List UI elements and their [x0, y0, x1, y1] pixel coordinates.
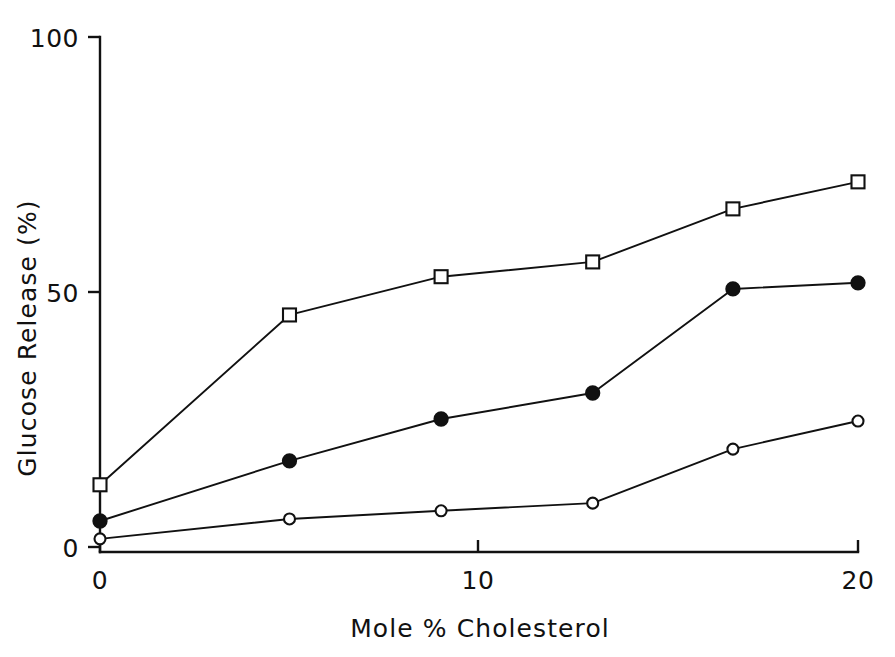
marker-open-circle — [95, 533, 106, 544]
line-chart-canvas: 100 50 0 0 10 20 Mole % Cholesterol Gluc… — [0, 0, 895, 657]
marker-open-circle — [727, 444, 738, 455]
data-series-layer — [93, 175, 864, 544]
marker-filled-circle — [726, 282, 739, 295]
marker-filled-circle — [851, 276, 864, 289]
axes-group — [100, 37, 858, 552]
marker-open-circle — [284, 513, 295, 524]
marker-open-circle — [587, 498, 598, 509]
x-tick-label-20: 20 — [842, 566, 875, 595]
marker-open-square — [283, 308, 296, 321]
x-tick-label-0: 0 — [92, 566, 108, 595]
y-axis-title: Glucose Release (%) — [13, 199, 42, 476]
marker-open-square — [726, 202, 739, 215]
y-tick-label-100: 100 — [30, 24, 79, 53]
marker-filled-circle — [586, 386, 599, 399]
marker-filled-circle — [283, 454, 296, 467]
marker-open-square — [94, 478, 107, 491]
y-tick-label-50: 50 — [46, 279, 79, 308]
marker-filled-circle — [435, 412, 448, 425]
marker-filled-circle — [93, 514, 106, 527]
y-ticks-group — [88, 37, 100, 547]
marker-open-circle — [853, 416, 864, 427]
series-filled-circle-series — [93, 276, 864, 527]
marker-open-circle — [436, 505, 447, 516]
series-open-circle-series — [95, 416, 864, 545]
marker-open-square — [435, 270, 448, 283]
series-line-filled-circle-series — [100, 283, 858, 521]
series-open-square-series — [94, 175, 865, 491]
y-tick-label-0: 0 — [63, 534, 79, 563]
series-line-open-square-series — [100, 182, 858, 485]
x-tick-labels-group: 0 10 20 — [92, 566, 875, 595]
marker-open-square — [586, 255, 599, 268]
x-axis-title: Mole % Cholesterol — [350, 614, 610, 643]
series-line-open-circle-series — [100, 421, 858, 539]
chart-figure: 100 50 0 0 10 20 Mole % Cholesterol Gluc… — [0, 0, 895, 657]
x-ticks-group — [100, 540, 858, 552]
x-tick-label-10: 10 — [462, 566, 495, 595]
marker-open-square — [852, 175, 865, 188]
